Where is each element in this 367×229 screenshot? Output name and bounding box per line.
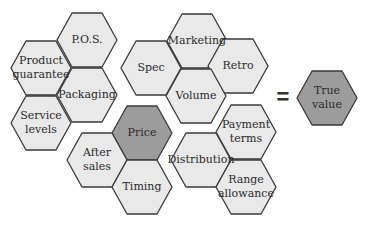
hexagon-canvas — [0, 0, 367, 229]
value-hexagon-diagram: P.O.S.Product guaranteePackagingService … — [0, 0, 367, 229]
hexagon-shape — [297, 71, 357, 125]
equals-sign: = — [277, 84, 290, 110]
hexagon-true-value — [297, 71, 357, 125]
